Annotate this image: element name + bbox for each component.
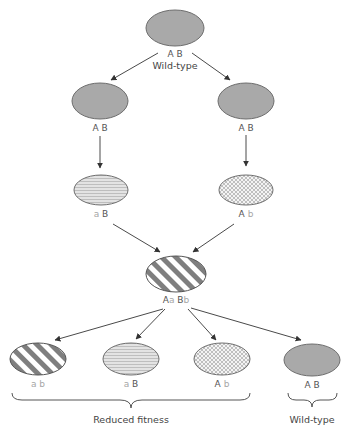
offspring-aB-genotype: a B	[124, 379, 139, 390]
offspring-AB-node	[284, 344, 340, 376]
allele-a: A	[92, 123, 98, 133]
root-wildtype-node	[146, 10, 204, 46]
allele-b: B	[102, 209, 108, 219]
allele-b: b	[224, 379, 230, 389]
allele-a: A	[304, 380, 310, 390]
allele-a: A	[239, 209, 245, 219]
offspring-ab-node	[10, 343, 66, 375]
allele-a: A	[167, 49, 173, 59]
allele-b: B	[176, 49, 182, 59]
allele-b: b	[39, 379, 45, 389]
allele-B: B	[174, 295, 183, 305]
reduced-fitness-brace	[12, 393, 250, 408]
allele-b: b	[248, 209, 254, 219]
arrow-aB-to-hybrid	[113, 224, 160, 252]
level2-left-node	[72, 83, 128, 119]
allele-b: B	[132, 379, 138, 389]
level3-aB-genotype: a B	[94, 209, 109, 220]
hybrid-genotype: Aa Bb	[163, 295, 189, 306]
level2-left-genotype: A B	[92, 123, 107, 134]
offspring-AB-genotype: A B	[304, 380, 319, 391]
wildtype-brace	[288, 393, 337, 407]
level3-Ab-node	[219, 175, 273, 205]
allele-a: a	[124, 379, 130, 389]
allele-a: A	[238, 123, 244, 133]
offspring-ab-genotype: a b	[31, 379, 45, 390]
level2-right-genotype: A B	[238, 123, 253, 134]
root-genotype-label: A B	[167, 49, 182, 60]
offspring-Ab-genotype: A b	[215, 379, 230, 390]
root-caption: Wild-type	[152, 60, 197, 72]
allele-b: b	[184, 295, 190, 305]
hybrid-node	[146, 256, 206, 292]
arrow-hybrid-to-AB	[191, 308, 301, 340]
offspring-Ab-node	[194, 343, 250, 375]
level2-right-node	[218, 83, 274, 119]
allele-a: a	[94, 209, 100, 219]
level3-Ab-genotype: A b	[239, 209, 254, 220]
allele-a: a	[31, 379, 37, 389]
arrow-Ab-to-hybrid	[193, 224, 234, 252]
offspring-aB-node	[103, 343, 159, 375]
arrow-root-left	[111, 53, 158, 80]
wildtype-group-caption: Wild-type	[289, 414, 334, 426]
allele-b: B	[101, 123, 107, 133]
hybrid-incompatibility-diagram: A B Wild-type A B A B a B A b Aa Bb a b …	[0, 0, 350, 430]
allele-a: A	[215, 379, 221, 389]
level3-aB-node	[74, 175, 128, 205]
reduced-fitness-caption: Reduced fitness	[93, 414, 169, 426]
allele-b: B	[247, 123, 253, 133]
allele-b: B	[313, 380, 319, 390]
arrow-hybrid-to-aB	[136, 309, 165, 339]
arrow-root-right	[192, 53, 230, 80]
arrow-hybrid-to-ab	[55, 309, 163, 340]
